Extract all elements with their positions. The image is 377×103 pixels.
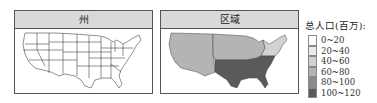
legend-label: 80~100	[321, 77, 355, 87]
facet-panel-states: 州	[14, 10, 153, 94]
legend-label: 40~60	[321, 56, 350, 66]
legend-swatch	[308, 46, 317, 57]
legend-label: 60~80	[321, 67, 350, 77]
region-south	[215, 56, 275, 88]
legend-item: 40~60	[308, 56, 366, 67]
legend-label: 100~120	[321, 88, 361, 98]
region-northeast	[261, 35, 287, 56]
legend-item: 80~100	[308, 77, 366, 88]
legend-label: 20~40	[321, 46, 350, 56]
facet-strip-label: 州	[15, 11, 152, 29]
legend-swatch	[308, 88, 317, 99]
legend: 总人口(百万): 0~20 20~40 40~60 60~80 80~100 1…	[305, 18, 366, 98]
legend-title: 总人口(百万):	[305, 18, 366, 32]
legend-item: 100~120	[308, 88, 366, 99]
legend-swatch	[308, 77, 317, 88]
legend-item: 60~80	[308, 67, 366, 78]
legend-swatch	[308, 35, 317, 46]
facet-panel-regions: 区域	[160, 10, 299, 94]
states-map	[15, 28, 152, 94]
legend-label: 0~20	[321, 35, 344, 45]
legend-swatch	[308, 67, 317, 78]
legend-swatch	[308, 56, 317, 67]
regions-map	[161, 28, 298, 94]
region-west	[169, 33, 215, 76]
legend-item: 20~40	[308, 46, 366, 57]
facet-strip-label: 区域	[161, 11, 298, 29]
legend-item: 0~20	[308, 35, 366, 46]
region-midwest	[213, 34, 265, 60]
